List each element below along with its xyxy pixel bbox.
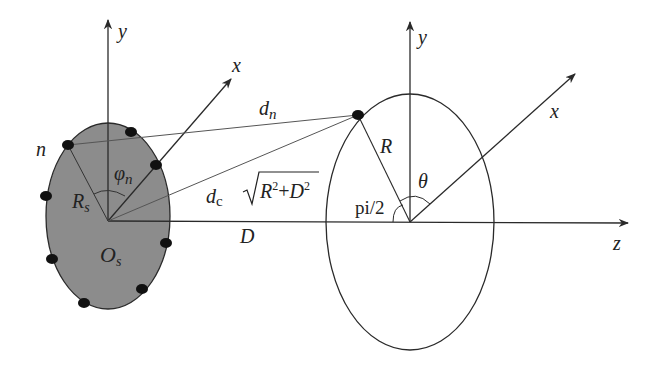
phi-symbol: φ (114, 162, 125, 185)
right-angle-arc (393, 205, 403, 222)
array-element (46, 254, 58, 264)
receiver-point (352, 110, 364, 120)
array-element (150, 160, 162, 170)
theta-angle-arc (400, 196, 430, 204)
z-axis-label: z (612, 232, 621, 254)
dc-formula: R2+D2 (243, 172, 319, 204)
element-n-label: n (36, 138, 46, 160)
rs-symbol: R (71, 190, 84, 212)
os-subscript: s (116, 254, 122, 269)
source-x-label: x (231, 54, 241, 76)
formula-plus: + (278, 180, 289, 202)
receiver-x-label: x (549, 100, 559, 122)
array-element (40, 191, 52, 201)
formula-D: D (289, 180, 305, 202)
phi-subscript: n (125, 171, 133, 187)
array-element (160, 238, 172, 248)
distance-D-label: D (239, 225, 255, 247)
rs-subscript: s (84, 200, 90, 215)
z-axis (108, 221, 628, 223)
array-element (136, 284, 148, 294)
array-element-n (62, 140, 74, 150)
dn-subscript: n (269, 106, 277, 122)
dn-label: dn (259, 97, 277, 122)
receiver-y-label: y (416, 26, 427, 49)
theta-label: θ (418, 170, 428, 192)
dc-label: dc (206, 185, 223, 209)
dc-formula-text: R2+D2 (259, 179, 310, 202)
formula-R: R (259, 180, 272, 202)
array-element (78, 298, 90, 308)
array-element (125, 127, 137, 137)
formula-D-sup: 2 (304, 179, 310, 193)
receiver-radius-label: R (379, 135, 392, 157)
diagram-canvas: y x n φn Rs Os dn dc R2+D2 D y x z R θ p… (0, 0, 658, 367)
os-symbol: O (100, 242, 116, 267)
dc-subscript: c (216, 193, 223, 209)
right-angle-label: pi/2 (355, 197, 385, 218)
source-y-label: y (116, 20, 127, 43)
